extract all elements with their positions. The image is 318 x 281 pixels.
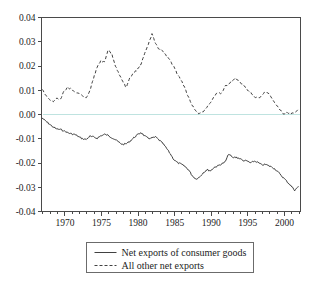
y-tick-label: 0.00 [19, 110, 36, 120]
net-exports-line-chart: 0.040.030.020.010.00-0.01-0.02-0.03-0.04… [0, 0, 318, 281]
x-tick-label: 1970 [55, 218, 74, 228]
x-tick-label: 1995 [238, 218, 257, 228]
x-tick-label: 1980 [129, 218, 148, 228]
y-tick-label: 0.01 [19, 86, 36, 96]
y-tick-label: 0.03 [19, 37, 36, 47]
chart-figure: 0.040.030.020.010.00-0.01-0.02-0.03-0.04… [0, 0, 318, 281]
legend-label: Net exports of consumer goods [122, 247, 247, 258]
chart-legend: Net exports of consumer goodsAll other n… [87, 243, 254, 273]
y-tick-label: 0.02 [19, 61, 36, 71]
x-tick-label: 1990 [202, 218, 221, 228]
y-tick-label: -0.02 [16, 158, 36, 168]
x-tick-label: 1975 [92, 218, 111, 228]
y-tick-label: -0.03 [16, 183, 36, 193]
y-tick-label: -0.04 [16, 207, 36, 217]
x-tick-label: 1985 [165, 218, 184, 228]
y-tick-label: 0.04 [19, 13, 36, 23]
y-tick-label: -0.01 [16, 134, 36, 144]
legend-label: All other net exports [122, 260, 205, 271]
x-tick-label: 2000 [275, 218, 294, 228]
